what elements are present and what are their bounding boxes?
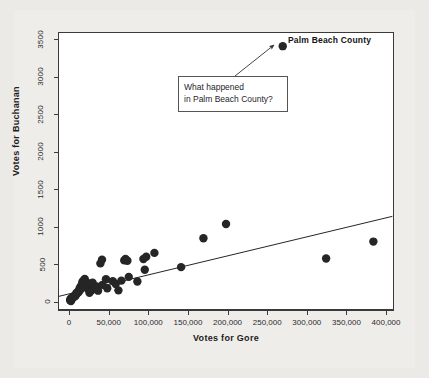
data-point	[177, 263, 185, 271]
data-point	[150, 249, 158, 257]
x-tick-150000	[188, 311, 189, 315]
data-point	[98, 255, 106, 263]
x-tick-label: 150,000	[173, 318, 202, 327]
x-tick-100000	[148, 311, 149, 315]
x-tick-label: 350,000	[332, 318, 361, 327]
data-point	[142, 253, 150, 261]
x-tick-label: 50,000	[96, 318, 120, 327]
x-tick-300000	[307, 311, 308, 315]
y-tick-label: 0	[0, 284, 50, 320]
scatter-plot-canvas	[58, 32, 394, 310]
data-point	[117, 276, 125, 284]
y-tick-label: 1500	[0, 171, 50, 207]
y-axis-title: Votes for Buchanan	[11, 71, 21, 191]
data-point	[369, 237, 377, 245]
x-tick-250000	[267, 311, 268, 315]
regression-line	[59, 216, 393, 296]
data-point	[322, 254, 330, 262]
x-tick-label: 300,000	[292, 318, 321, 327]
data-point	[199, 234, 207, 242]
x-tick-200000	[228, 311, 229, 315]
x-tick-label: 250,000	[253, 318, 282, 327]
x-tick-0	[69, 311, 70, 315]
x-tick-label: 100,000	[134, 318, 163, 327]
x-tick-label: 0	[67, 318, 71, 327]
annotation-line-1: What happened	[184, 81, 282, 93]
y-tick-label: 3000	[0, 59, 50, 95]
x-tick-label: 200,000	[213, 318, 242, 327]
data-point	[125, 273, 133, 281]
x-axis-title: Votes for Gore	[58, 333, 394, 343]
x-tick-350000	[346, 311, 347, 315]
chart-figure: 0500100015002000250030003500 050,000100,…	[0, 0, 429, 378]
x-tick-label: 400,000	[372, 318, 401, 327]
data-point	[141, 265, 149, 273]
data-point	[133, 277, 141, 285]
x-tick-50000	[109, 311, 110, 315]
y-tick-label: 3500	[0, 21, 50, 57]
y-tick-label: 2500	[0, 96, 50, 132]
data-point	[114, 286, 122, 294]
y-tick-label: 1000	[0, 209, 50, 245]
palm-beach-county-label: Palm Beach County	[288, 35, 371, 45]
x-tick-400000	[386, 311, 387, 315]
y-tick-label: 500	[0, 246, 50, 282]
data-point	[103, 284, 111, 292]
data-point-palm-beach-county	[279, 42, 287, 50]
y-tick-label: 2000	[0, 134, 50, 170]
annotation-callout: What happened in Palm Beach County?	[178, 76, 288, 112]
annotation-line-2: in Palm Beach County?	[184, 93, 282, 105]
data-point	[222, 220, 230, 228]
data-point	[123, 256, 131, 264]
